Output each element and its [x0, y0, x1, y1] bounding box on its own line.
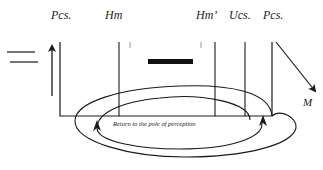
- diagram-canvas: Pcs. Hm Hm’ Ucs. Pcs. M Ret: [0, 0, 323, 170]
- label-ucs: Ucs.: [229, 8, 251, 22]
- motor-arrow-icon: [276, 42, 315, 91]
- apparatus-frame: [60, 42, 272, 116]
- loop-arrowhead-right-icon: [259, 115, 267, 126]
- caption-return-to-perception: Return to the pole of perception: [112, 120, 196, 127]
- psychic-apparatus-diagram: Pcs. Hm Hm’ Ucs. Pcs. M Ret: [0, 0, 323, 170]
- label-motor: M: [302, 96, 313, 108]
- label-pcs-right: Pcs.: [262, 8, 283, 22]
- label-hm: Hm: [104, 8, 123, 22]
- barrier-bar: [148, 59, 193, 64]
- label-pcs-left: Pcs.: [50, 8, 71, 22]
- label-hm-prime: Hm’: [195, 8, 217, 22]
- double-line-icon: [7, 52, 38, 62]
